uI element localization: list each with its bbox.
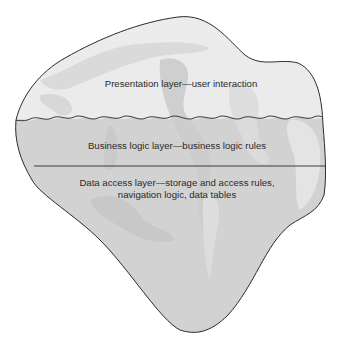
presentation-layer-label: Presentation layer—user interaction — [12, 78, 338, 90]
iceberg-diagram — [0, 0, 338, 337]
data-access-label-line2: navigation logic, data tables — [8, 189, 338, 201]
business-logic-layer-label: Business logic layer—business logic rule… — [8, 140, 338, 152]
iceberg-body — [0, 0, 338, 337]
data-access-layer-label: Data access layer—storage and access rul… — [8, 177, 338, 201]
data-access-label-line1: Data access layer—storage and access rul… — [8, 177, 338, 189]
